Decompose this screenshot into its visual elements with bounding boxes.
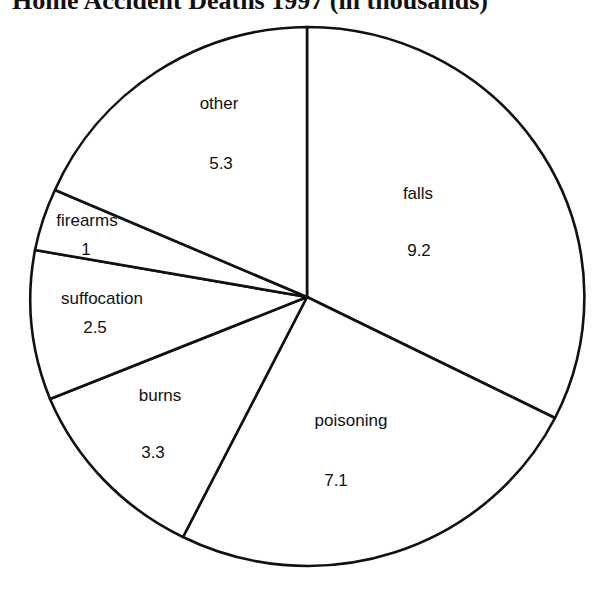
value-falls: 9.2 (407, 241, 431, 260)
label-burns: burns (139, 386, 182, 405)
label-other: other (200, 94, 239, 113)
label-falls: falls (403, 184, 433, 203)
value-firearms: 1 (81, 240, 90, 259)
value-suffocation: 2.5 (83, 318, 107, 337)
value-burns: 3.3 (141, 443, 165, 462)
pie-chart: falls 9.2 poisoning 7.1 burns 3.3 suffoc… (0, 0, 605, 589)
label-firearms: firearms (56, 211, 117, 230)
label-suffocation: suffocation (61, 289, 143, 308)
label-poisoning: poisoning (315, 411, 388, 430)
value-other: 5.3 (209, 154, 233, 173)
value-poisoning: 7.1 (324, 471, 348, 490)
